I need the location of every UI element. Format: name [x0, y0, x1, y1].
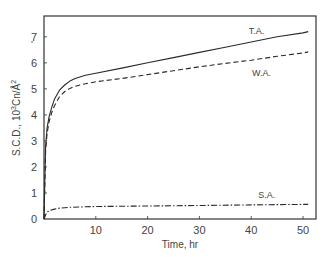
x-tick-label: 10 [90, 224, 102, 236]
y-tick-label: 6 [31, 57, 37, 69]
plot-frame [44, 16, 316, 219]
x-tick-label: 50 [297, 224, 309, 236]
y-tick-label: 5 [31, 83, 37, 95]
y-tick-label: 7 [31, 31, 37, 43]
chart: 01234567 1020304050 T.A.W.A.S.A. Time, h… [0, 0, 332, 257]
series-labels: T.A.W.A.S.A. [249, 26, 276, 200]
y-tick-label: 2 [31, 161, 37, 173]
series-sa [44, 204, 308, 219]
y-tick-label: 1 [31, 187, 37, 199]
x-tick-label: 20 [141, 224, 153, 236]
x-tick-label: 40 [245, 224, 257, 236]
y-tick-label: 4 [31, 109, 37, 121]
series-label: S.A. [258, 190, 275, 200]
y-tick-label: 3 [31, 135, 37, 147]
stray-mark [31, 41, 33, 43]
y-axis-title: S.C.D., 103Cn/Å2 [10, 80, 22, 156]
x-tick-label: 30 [193, 224, 205, 236]
series-label: W.A. [252, 68, 271, 78]
series-label: T.A. [249, 26, 265, 36]
y-tick-label: 0 [31, 213, 37, 225]
x-axis-title: Time, hr [162, 239, 199, 250]
